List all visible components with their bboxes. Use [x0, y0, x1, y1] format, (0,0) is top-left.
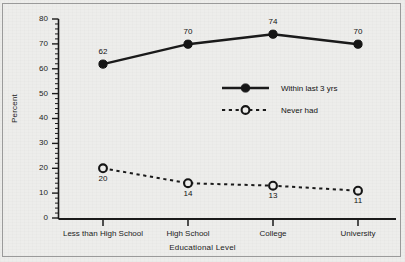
x-axis-title: Educational Level: [0, 243, 405, 252]
series-within-last-3-yrs-markers: [99, 30, 362, 68]
y-axis-title: Percent: [10, 79, 19, 139]
data-label-within-3: 70: [343, 27, 373, 36]
x-tick-label-college: College: [233, 229, 313, 238]
chart-figure: 80 70 60 50 40 30 20 10 0 Percent Less t…: [0, 0, 405, 262]
x-tick-label-university: University: [316, 229, 400, 238]
y-tick-label-80: 80: [22, 14, 48, 23]
x-tick-label-high-school: High School: [143, 229, 233, 238]
y-tick-label-20: 20: [22, 163, 48, 172]
legend-label-within-last-3-yrs: Within last 3 yrs: [281, 84, 337, 93]
legend-label-never-had: Never had: [281, 106, 318, 115]
x-axis-ticks: [103, 219, 358, 226]
data-label-within-1: 70: [173, 27, 203, 36]
y-tick-label-30: 30: [22, 138, 48, 147]
series-never-had-line: [103, 168, 358, 190]
data-label-within-2: 74: [258, 17, 288, 26]
data-label-never-1: 14: [173, 189, 203, 198]
series-never-had-markers: [99, 164, 362, 194]
data-label-never-2: 13: [258, 191, 288, 200]
y-tick-label-10: 10: [22, 188, 48, 197]
y-tick-label-40: 40: [22, 113, 48, 122]
data-label-never-3: 11: [343, 196, 373, 205]
y-tick-label-50: 50: [22, 89, 48, 98]
legend-swatch-within-last-3-yrs: [222, 84, 269, 92]
y-tick-label-60: 60: [22, 64, 48, 73]
y-tick-label-70: 70: [22, 39, 48, 48]
legend-swatch-never-had: [222, 106, 269, 114]
series-within-last-3-yrs-line: [103, 34, 358, 64]
line-chart-plot: [0, 0, 405, 262]
data-label-within-0: 62: [88, 47, 118, 56]
y-tick-label-0: 0: [22, 213, 48, 222]
data-label-never-0: 20: [88, 174, 118, 183]
